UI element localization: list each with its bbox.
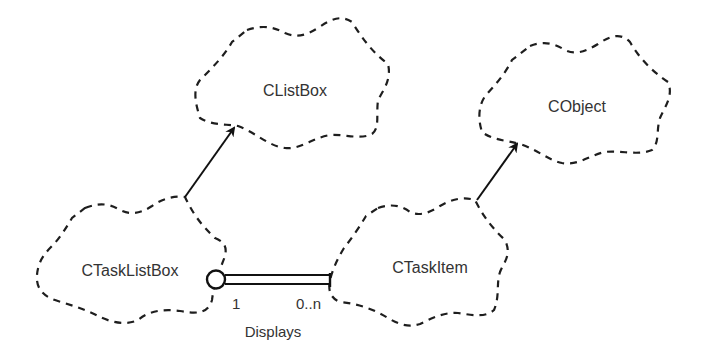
association-displays[interactable]: 1 0..n Displays — [207, 271, 330, 341]
ctaskitem-label: CTaskItem — [392, 259, 468, 276]
class-cobject[interactable]: CObject — [479, 36, 669, 163]
inheritance-arrow-ctaskitem-to-cobject — [477, 144, 517, 200]
multiplicity-to-label: 0..n — [296, 295, 321, 312]
containment-circle-icon — [207, 271, 225, 289]
cobject-label: CObject — [548, 98, 606, 115]
class-ctaskitem[interactable]: CTaskItem — [329, 198, 507, 325]
class-ctasklistbox[interactable]: CTaskListBox — [37, 196, 226, 322]
ctasklistbox-cloud-outline — [37, 196, 226, 322]
inheritance-arrow-ctasklistbox-to-clistbox — [185, 128, 234, 197]
class-clistbox[interactable]: CListBox — [195, 18, 389, 148]
clistbox-label: CListBox — [263, 82, 327, 99]
ctasklistbox-label: CTaskListBox — [82, 262, 179, 279]
multiplicity-from-label: 1 — [232, 295, 240, 312]
association-name-label: Displays — [245, 323, 302, 340]
class-diagram: CListBox CObject CTaskListBox CTaskItem … — [0, 0, 703, 358]
